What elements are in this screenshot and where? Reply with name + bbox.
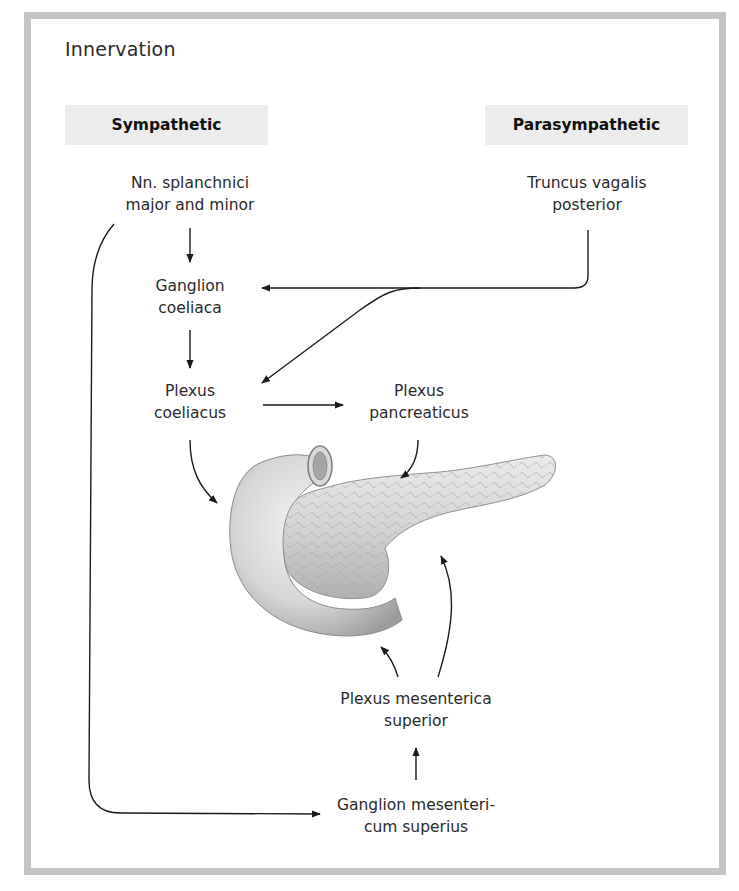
node-plexus-pancreaticus: Plexus pancreaticus [369,380,469,424]
arrow-mesenterica-to-pancreas-body [438,556,452,677]
node-line: posterior [527,194,646,216]
node-plexus-mesenterica: Plexus mesenterica superior [340,688,491,732]
node-line: major and minor [126,194,255,216]
arrow-mesenterica-to-pancreas-head [381,647,398,677]
node-ganglion-coeliaca: Ganglion coeliaca [155,275,224,319]
arrow-pancreaticus-to-pancreas [401,440,418,478]
pancreas-illustration [230,446,556,636]
node-truncus-vagalis: Truncus vagalis posterior [527,172,646,216]
arrow-vagus-to-ganglion-coeliaca [262,230,588,288]
node-line: pancreaticus [369,402,469,424]
node-line: Ganglion [155,275,224,297]
node-line: coeliaca [155,297,224,319]
arrow-coeliacus-to-pancreas [190,440,217,503]
node-nn-splanchnici: Nn. splanchnici major and minor [126,172,255,216]
node-line: coeliacus [154,402,226,424]
node-line: superior [340,710,491,732]
node-ganglion-mesentericum: Ganglion mesenteri- cum superius [337,794,495,838]
node-line: Truncus vagalis [527,172,646,194]
node-line: cum superius [337,816,495,838]
arrow-vagus-to-plexus-coeliacus [262,288,420,383]
node-line: Plexus mesenterica [340,688,491,710]
node-line: Plexus [154,380,226,402]
node-plexus-coeliacus: Plexus coeliacus [154,380,226,424]
innervation-diagram [0,0,739,891]
node-line: Ganglion mesenteri- [337,794,495,816]
node-line: Nn. splanchnici [126,172,255,194]
node-line: Plexus [369,380,469,402]
